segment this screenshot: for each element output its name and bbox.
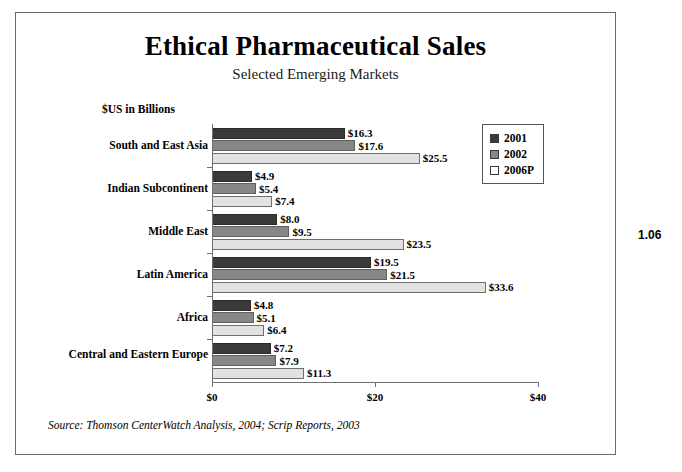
chart-frame: Ethical Pharmaceutical Sales Selected Em… xyxy=(15,12,616,455)
bar-value-label: $25.5 xyxy=(423,153,448,164)
bar-value-label: $6.4 xyxy=(267,325,286,336)
legend-swatch-icon xyxy=(490,166,499,175)
bar-value-label: $23.5 xyxy=(407,239,432,250)
legend-item-2002[interactable]: 2002 xyxy=(490,146,534,162)
bar-2002-1[interactable] xyxy=(212,140,355,151)
bar-2002-2[interactable] xyxy=(212,183,256,194)
chart-legend: 200120022006P xyxy=(482,124,544,184)
bar-2001-5[interactable] xyxy=(212,300,251,311)
chart-title: Ethical Pharmaceutical Sales xyxy=(16,31,615,62)
x-axis-tick-label: $40 xyxy=(530,391,547,403)
category-label-6: Central and Eastern Europe xyxy=(28,348,208,361)
bar-2002-6[interactable] xyxy=(212,355,276,366)
bar-value-label: $8.0 xyxy=(280,214,299,225)
bar-2001-2[interactable] xyxy=(212,171,252,182)
y-axis-tick xyxy=(207,167,212,168)
bar-value-label: $7.4 xyxy=(275,196,294,207)
bar-2001-4[interactable] xyxy=(212,257,371,268)
legend-item-2001[interactable]: 2001 xyxy=(490,130,534,146)
bar-2006P-3[interactable] xyxy=(212,239,404,250)
bar-value-label: $7.9 xyxy=(279,356,298,367)
bar-value-label: $7.2 xyxy=(274,343,293,354)
x-axis-tick xyxy=(212,382,213,387)
legend-item-2006P[interactable]: 2006P xyxy=(490,162,534,178)
figure-number: 1.06 xyxy=(638,228,661,242)
bar-2001-3[interactable] xyxy=(212,214,277,225)
legend-label: 2001 xyxy=(504,132,527,144)
x-axis-tick-label: $20 xyxy=(367,391,384,403)
bar-value-label: $19.5 xyxy=(374,257,399,268)
bar-value-label: $5.4 xyxy=(259,184,278,195)
bar-value-label: $5.1 xyxy=(257,313,276,324)
bar-2002-4[interactable] xyxy=(212,269,387,280)
bar-2001-6[interactable] xyxy=(212,343,271,354)
bar-value-label: $16.3 xyxy=(348,128,373,139)
bar-value-label: $33.6 xyxy=(489,282,514,293)
bar-value-label: $4.9 xyxy=(255,171,274,182)
bar-group: $7.2$7.9$11.3 xyxy=(212,339,538,382)
bar-2002-5[interactable] xyxy=(212,312,254,323)
x-axis-tick-label: $0 xyxy=(207,391,218,403)
bar-group: $8.0$9.5$23.5 xyxy=(212,210,538,253)
bar-2002-3[interactable] xyxy=(212,226,289,237)
category-label-1: South and East Asia xyxy=(28,139,208,152)
category-label-3: Middle East xyxy=(28,225,208,238)
y-axis-tick xyxy=(207,339,212,340)
bar-2001-1[interactable] xyxy=(212,128,345,139)
bar-2006P-6[interactable] xyxy=(212,368,304,379)
bar-2006P-5[interactable] xyxy=(212,325,264,336)
bar-value-label: $11.3 xyxy=(307,368,331,379)
bar-value-label: $4.8 xyxy=(254,300,273,311)
legend-label: 2002 xyxy=(504,148,527,160)
units-label: $US in Billions xyxy=(102,103,175,115)
x-axis-tick xyxy=(538,382,539,387)
bar-2006P-2[interactable] xyxy=(212,196,272,207)
y-axis-tick xyxy=(207,253,212,254)
source-note: Source: Thomson CenterWatch Analysis, 20… xyxy=(48,419,360,431)
bar-2006P-4[interactable] xyxy=(212,282,486,293)
category-label-2: Indian Subcontinent xyxy=(28,182,208,195)
y-axis-line xyxy=(212,124,213,383)
bar-group: $4.8$5.1$6.4 xyxy=(212,296,538,339)
y-axis-tick xyxy=(207,210,212,211)
y-axis-tick xyxy=(207,296,212,297)
bar-2006P-1[interactable] xyxy=(212,153,420,164)
legend-swatch-icon xyxy=(490,134,499,143)
bar-value-label: $21.5 xyxy=(390,270,415,281)
category-axis: South and East AsiaIndian SubcontinentMi… xyxy=(16,124,208,382)
x-axis-tick xyxy=(375,382,376,387)
legend-swatch-icon xyxy=(490,150,499,159)
bar-value-label: $9.5 xyxy=(292,227,311,238)
category-label-4: Latin America xyxy=(28,268,208,281)
category-label-5: Africa xyxy=(28,311,208,324)
legend-label: 2006P xyxy=(504,164,534,176)
chart-subtitle: Selected Emerging Markets xyxy=(16,66,615,83)
bar-group: $19.5$21.5$33.6 xyxy=(212,253,538,296)
bar-value-label: $17.6 xyxy=(358,141,383,152)
